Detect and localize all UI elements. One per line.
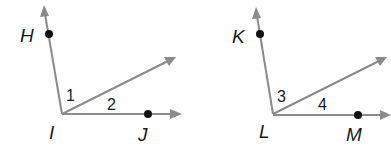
arrowhead-icon: [170, 109, 182, 119]
angle-label-1: 1: [66, 87, 75, 104]
angle-label-2: 2: [107, 96, 116, 113]
arrowhead-icon: [40, 5, 49, 17]
figure-angle-klm: K L M 3 4: [232, 7, 391, 145]
arrowhead-icon: [380, 110, 391, 120]
figure-angle-hij: H I J 1 2: [20, 5, 182, 145]
label-i: I: [49, 122, 55, 143]
label-m: M: [346, 124, 362, 145]
angle-diagram: H I J 1 2 K L M 3 4: [0, 0, 391, 164]
point-j: [144, 110, 152, 118]
label-h: H: [20, 25, 34, 46]
point-h: [45, 30, 53, 38]
angle-label-3: 3: [277, 88, 286, 105]
point-k: [256, 30, 264, 38]
label-j: J: [137, 124, 148, 145]
ray-ih: [45, 14, 62, 114]
angle-label-4: 4: [318, 96, 327, 113]
label-k: K: [232, 26, 246, 47]
point-m: [354, 111, 362, 119]
arrowhead-icon: [252, 7, 261, 19]
label-l: L: [259, 121, 270, 142]
